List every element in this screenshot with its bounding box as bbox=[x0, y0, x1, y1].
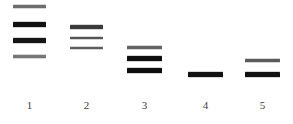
gel-band bbox=[13, 5, 46, 8]
gel-band bbox=[70, 25, 103, 29]
gel-lane-1: 1 bbox=[13, 0, 46, 124]
gel-band bbox=[13, 55, 46, 58]
gel-band bbox=[70, 47, 103, 49]
gel-band bbox=[127, 56, 162, 61]
gel-band bbox=[13, 38, 46, 43]
lane-label-2: 2 bbox=[70, 100, 103, 111]
gel-lane-5: 5 bbox=[245, 0, 280, 124]
gel-band bbox=[70, 37, 103, 39]
gel-band bbox=[13, 22, 46, 27]
lane-label-1: 1 bbox=[13, 100, 46, 111]
gel-lane-2: 2 bbox=[70, 0, 103, 124]
lane-label-5: 5 bbox=[245, 100, 280, 111]
gel-band bbox=[127, 46, 162, 49]
gel-band bbox=[245, 59, 280, 62]
gel-band bbox=[245, 72, 280, 77]
gel-electrophoresis-figure: 12345 bbox=[0, 0, 293, 124]
gel-lane-4: 4 bbox=[188, 0, 223, 124]
gel-band bbox=[188, 72, 223, 77]
gel-lane-3: 3 bbox=[127, 0, 162, 124]
gel-band bbox=[127, 68, 162, 73]
lane-label-4: 4 bbox=[188, 100, 223, 111]
lane-label-3: 3 bbox=[127, 100, 162, 111]
